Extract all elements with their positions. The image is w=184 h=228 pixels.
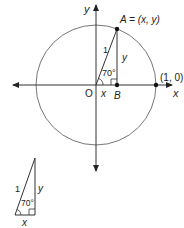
small-vertical-leg-label: y xyxy=(37,183,44,194)
origin-label: O xyxy=(85,88,93,99)
small-angle-label: 70° xyxy=(21,198,34,208)
horizontal-leg-label: x xyxy=(100,88,107,99)
small-right-angle-mark xyxy=(29,209,35,215)
point-unit xyxy=(154,83,158,87)
point-A xyxy=(115,27,119,31)
angle-arc xyxy=(99,78,104,85)
small-triangle: 1 y x 70° xyxy=(15,158,44,228)
point-B xyxy=(115,83,119,87)
vertical-leg-label: y xyxy=(121,52,128,63)
small-angle-arc xyxy=(17,209,21,215)
point-B-label: B xyxy=(114,90,121,101)
unit-circle-diagram: y x O A = (x, y) B (1, 0) 1 y x 70° 1 y … xyxy=(0,0,184,228)
hypotenuse-label: 1 xyxy=(103,45,108,55)
point-A-label: A = (x, y) xyxy=(119,14,160,25)
y-axis-label: y xyxy=(83,3,91,15)
point-unit-label: (1, 0) xyxy=(160,72,183,83)
x-axis-label: x xyxy=(172,87,179,99)
angle-label: 70° xyxy=(102,68,116,78)
small-horizontal-leg-label: x xyxy=(21,217,28,228)
small-hypotenuse-label: 1 xyxy=(15,184,20,194)
